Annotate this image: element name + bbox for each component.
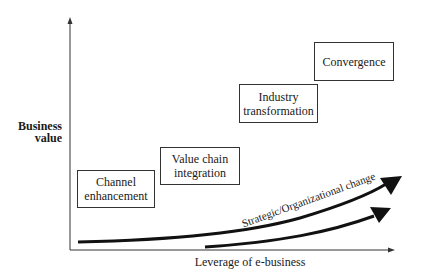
- stage-box-industry-transformation: Industry transformation: [239, 84, 318, 123]
- stage-label-line: Value chain: [172, 152, 228, 166]
- stage-box-convergence: Convergence: [314, 42, 394, 81]
- stage-label-line: transformation: [243, 104, 314, 118]
- stage-label-line: Industry: [243, 90, 314, 104]
- stage-box-channel-enhancement: Channel enhancement: [77, 170, 155, 208]
- y-axis-label: Business value: [10, 120, 62, 144]
- x-axis-arrow-icon: [388, 248, 395, 253]
- stage-label-line: Channel: [84, 175, 147, 189]
- stage-box-value-chain-integration: Value chain integration: [160, 147, 240, 185]
- y-axis-arrow-icon: [68, 17, 73, 24]
- stage-label-line: Convergence: [322, 55, 385, 69]
- y-axis-label-line-2: value: [10, 132, 62, 144]
- x-axis-label: Leverage of e-business: [180, 255, 320, 270]
- stage-label-line: enhancement: [84, 189, 147, 203]
- stage-label-line: integration: [172, 166, 228, 180]
